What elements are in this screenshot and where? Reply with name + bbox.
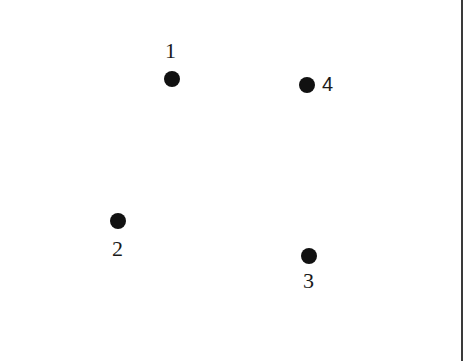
point-4-dot — [299, 77, 315, 93]
point-2-dot — [110, 213, 126, 229]
point-3-label: 3 — [303, 270, 314, 292]
point-1-dot — [164, 71, 180, 87]
right-border-line — [461, 0, 463, 361]
point-1-label: 1 — [165, 40, 176, 62]
point-4-label: 4 — [322, 74, 333, 94]
point-2-label: 2 — [112, 238, 123, 260]
point-3-dot — [301, 248, 317, 264]
diagram-canvas: 1 2 3 4 — [0, 0, 465, 361]
